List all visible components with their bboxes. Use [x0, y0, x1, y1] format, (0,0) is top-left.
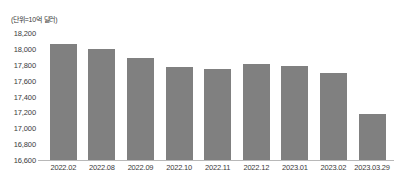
- bar-chart: (단위=10억 달러) 18,20018,00017,80017,60017,4…: [0, 0, 402, 191]
- bar-slot: [160, 33, 199, 160]
- x-axis-tick-label: 2022.11: [205, 163, 230, 172]
- x-axis-tick-label: 2022.02: [50, 163, 76, 172]
- bar: [359, 114, 386, 160]
- y-axis-tick-label: 17,600: [14, 76, 36, 85]
- x-axis-tick-label: 2022.12: [243, 163, 269, 172]
- y-axis-tick-label: 17,400: [14, 92, 36, 101]
- y-axis-tick-label: 16,800: [14, 140, 36, 149]
- bar-slot: [353, 33, 392, 160]
- x-label-slot: 2023.03.29: [353, 163, 392, 179]
- y-axis-tick-label: 18,200: [14, 29, 36, 38]
- x-label-slot: 2022.08: [83, 163, 122, 179]
- bar-slot: [121, 33, 160, 160]
- bar: [166, 67, 193, 160]
- x-label-slot: 2022.10: [160, 163, 199, 179]
- bar: [281, 66, 308, 160]
- x-axis-tick-label: 2023.02: [321, 163, 347, 172]
- bar: [88, 49, 115, 160]
- bar-slot: [198, 33, 237, 160]
- x-axis-tick-label: 2022.10: [166, 163, 192, 172]
- bar: [243, 64, 270, 160]
- x-label-slot: 2022.11: [198, 163, 237, 179]
- y-axis-tick-label: 17,200: [14, 108, 36, 117]
- unit-note: (단위=10억 달러): [11, 14, 57, 24]
- bar-series: [44, 33, 392, 160]
- x-axis: 2022.022022.082022.092022.102022.112022.…: [44, 163, 392, 179]
- axis-baseline: [38, 160, 394, 161]
- y-axis-tick-label: 17,800: [14, 60, 36, 69]
- y-axis-tick-label: 17,000: [14, 124, 36, 133]
- bar: [320, 73, 347, 160]
- x-label-slot: 2022.02: [44, 163, 83, 179]
- bar-slot: [44, 33, 83, 160]
- bar-slot: [276, 33, 315, 160]
- x-axis-tick-label: 2022.09: [128, 163, 154, 172]
- bar: [127, 58, 154, 160]
- bar: [204, 69, 231, 160]
- x-label-slot: 2022.09: [121, 163, 160, 179]
- x-axis-tick-label: 2022.08: [89, 163, 115, 172]
- bar-slot: [314, 33, 353, 160]
- y-axis-tick-label: 18,000: [14, 44, 36, 53]
- bar-slot: [237, 33, 276, 160]
- x-label-slot: 2023.02: [314, 163, 353, 179]
- x-label-slot: 2023.01: [276, 163, 315, 179]
- x-label-slot: 2022.12: [237, 163, 276, 179]
- x-axis-tick-label: 2023.03.29: [354, 163, 390, 172]
- bar-slot: [83, 33, 122, 160]
- y-axis: 18,20018,00017,80017,60017,40017,20017,0…: [0, 33, 40, 160]
- bar: [50, 44, 77, 160]
- x-axis-tick-label: 2023.01: [282, 163, 308, 172]
- y-axis-tick-label: 16,600: [14, 156, 36, 165]
